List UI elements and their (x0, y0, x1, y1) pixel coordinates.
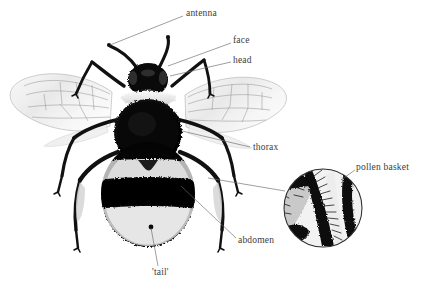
leader-lines (110, 16, 355, 266)
label-antenna: antenna (186, 9, 217, 19)
leader-inset-connector (208, 178, 285, 191)
label-tail: 'tail' (152, 268, 169, 278)
label-head: head (233, 56, 252, 66)
leader-head (170, 62, 231, 76)
leader-tail (151, 228, 158, 266)
label-abdomen: abdomen (238, 236, 274, 246)
bee-anatomy-figure: antenna face head thorax abdomen 'tail' … (0, 0, 428, 291)
leader-face (168, 43, 231, 66)
leader-lines-layer (0, 0, 428, 291)
label-pollen-basket: pollen basket (356, 163, 409, 173)
leader-abdomen (181, 186, 236, 238)
leader-antenna (110, 16, 183, 45)
leader-thorax (182, 131, 250, 147)
leader-pollen-basket (341, 170, 355, 180)
label-thorax: thorax (253, 143, 278, 153)
label-face: face (233, 36, 250, 46)
